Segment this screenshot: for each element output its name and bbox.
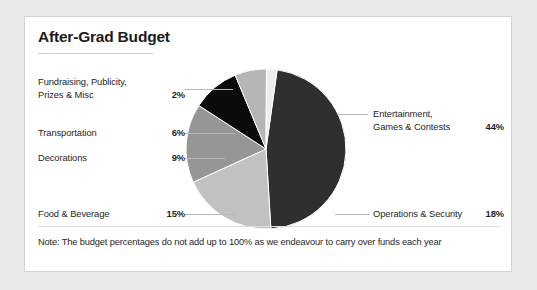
pie-slices	[186, 69, 346, 229]
legend-value-fundraising: 2%	[145, 89, 185, 102]
legend-label-fundraising-line1: Fundraising, Publicity,	[38, 76, 127, 89]
legend-value-food-beverage: 15%	[145, 208, 185, 221]
leader-line-entertainment	[338, 114, 368, 115]
footer-note: Note: The budget percentages do not add …	[38, 237, 442, 247]
legend-item-entertainment: Entertainment, Games & Contests 44%	[373, 108, 505, 135]
footer-divider	[38, 226, 500, 227]
pie-slice	[266, 70, 346, 229]
legend-label-decorations: Decorations	[38, 152, 87, 165]
legend-item-decorations: Decorations 9%	[38, 152, 185, 166]
legend-item-food-beverage: Food & Beverage 15%	[38, 208, 185, 222]
legend-item-operations: Operations & Security 18%	[373, 208, 505, 222]
legend-value-operations: 18%	[464, 208, 504, 221]
leader-line-operations	[335, 214, 369, 215]
legend-value-transportation: 6%	[145, 127, 185, 140]
leader-line-transportation	[185, 133, 235, 134]
legend-item-transportation: Transportation 6%	[38, 127, 185, 141]
leader-line-fundraising	[185, 89, 233, 90]
legend-value-decorations: 9%	[145, 152, 185, 165]
legend-label-food-beverage: Food & Beverage	[38, 208, 109, 221]
legend-value-entertainment: 44%	[464, 121, 504, 134]
legend-label-entertainment-line2: Games & Contests	[373, 121, 450, 134]
legend-label-entertainment-line1: Entertainment,	[373, 108, 433, 121]
infographic-card: After-Grad Budget Fundraising, Publicity…	[24, 16, 512, 272]
pie-chart	[25, 17, 513, 273]
legend-item-fundraising: Fundraising, Publicity, Prizes & Misc 2%	[38, 76, 185, 103]
legend-label-transportation: Transportation	[38, 127, 97, 140]
leader-line-decorations	[185, 158, 225, 159]
legend-label-operations: Operations & Security	[373, 208, 462, 221]
legend-label-fundraising-line2: Prizes & Misc	[38, 89, 93, 102]
leader-line-food-beverage	[185, 214, 237, 215]
